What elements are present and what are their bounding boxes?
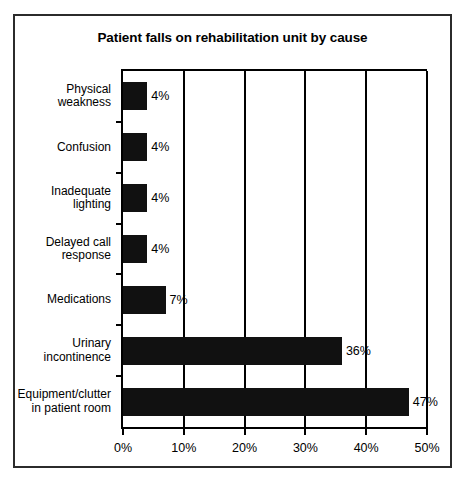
bar-value-label: 4% [151,184,169,212]
category-label: Physical weakness [0,83,118,110]
x-tick-label: 50% [414,441,439,455]
x-tick-label: 40% [354,441,379,455]
x-tick-label: 30% [293,441,318,455]
x-tick-mark [122,427,124,435]
gridline-50% [426,71,428,427]
x-tick-mark [183,427,185,435]
gridline-20% [244,71,246,427]
bar-value-label: 4% [151,235,169,263]
x-tick-mark [365,427,367,435]
category-label: Equipment/clutter in patient room [0,388,118,415]
bar [123,235,147,263]
gridline-30% [304,71,306,427]
chart-figure-frame: Patient falls on rehabilitation unit by … [13,14,452,468]
plot-area: 4%4%4%4%7%36%47% Physical weaknessConfus… [121,69,427,429]
bar [123,133,147,161]
x-tick-mark [304,427,306,435]
bar [123,337,342,365]
x-tick-label: 10% [171,441,196,455]
x-tick-label: 0% [114,441,132,455]
x-tick-mark [244,427,246,435]
bar [123,388,409,416]
category-label: Medications [0,293,118,307]
gridline-10% [183,71,185,427]
bar-value-label: 4% [151,133,169,161]
chart-title: Patient falls on rehabilitation unit by … [15,30,450,45]
bar [123,184,147,212]
y-axis-category-labels: Physical weaknessConfusionInadequate lig… [0,71,118,427]
bar [123,82,147,110]
bar [123,286,166,314]
bar-value-label: 47% [413,388,438,416]
category-label: Confusion [0,141,118,155]
gridline-40% [365,71,367,427]
category-label: Urinary incontinence [0,337,118,364]
category-label: Delayed call response [0,236,118,263]
bar-value-label: 7% [170,286,188,314]
category-label: Inadequate lighting [0,185,118,212]
bar-value-label: 4% [151,82,169,110]
x-tick-mark [426,427,428,435]
bar-value-label: 36% [346,337,371,365]
x-tick-label: 20% [232,441,257,455]
